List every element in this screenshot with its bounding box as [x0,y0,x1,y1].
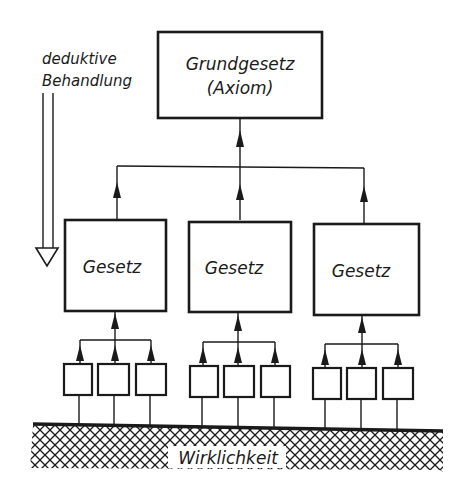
law-box-label: Gesetz [83,257,143,277]
arrow-up-icon [111,313,119,329]
arrow-up-icon [234,315,242,331]
observation-group [190,312,290,427]
observation-box [347,368,376,399]
axiom-box-subtitle: (Axiom) [207,78,274,98]
arrow-up-icon [236,184,244,200]
observation-box [98,364,129,395]
law-box-label: Gesetz [205,258,265,278]
law-box: Gesetz [189,222,291,312]
arrow-up-icon [113,182,121,198]
reality-ground: Wirklichkeit [28,424,446,474]
axiom-box: Grundgesetz (Axiom) [158,32,322,118]
arrow-up-icon [358,349,366,365]
law-to-axiom-connector [113,118,368,224]
observation-box [383,368,413,399]
law-box-label: Gesetz [332,261,392,281]
arrow-up-icon [147,345,155,361]
arrow-up-icon [111,345,119,361]
axiom-box-title: Grundgesetz [186,54,296,74]
arrow-up-icon [360,186,368,202]
deductive-diagram: deduktive Behandlung Grundgesetz (Axiom)… [0,0,465,501]
arrow-up-icon [321,349,329,365]
observation-box [313,368,341,399]
arrow-up-icon [394,349,402,365]
observation-group [64,311,166,425]
law-box: Gesetz [314,224,419,315]
arrow-up-icon [358,317,366,333]
arrow-up-icon [236,130,244,147]
observation-box [224,366,254,397]
side-label-line2: Behandlung [42,72,132,90]
deduction-arrow-icon [36,93,58,266]
observation-box [261,366,290,397]
arrow-up-icon [76,345,84,361]
observation-box [190,366,218,397]
reality-label: Wirklichkeit [178,448,279,468]
observation-box [136,364,166,395]
law-box: Gesetz [65,220,166,311]
observation-box [64,364,92,395]
observation-group [313,315,413,429]
side-label: deduktive Behandlung [42,50,132,90]
arrow-up-icon [271,347,279,363]
arrow-up-icon [199,347,207,363]
side-label-line1: deduktive [42,50,117,68]
arrow-up-icon [234,347,242,363]
